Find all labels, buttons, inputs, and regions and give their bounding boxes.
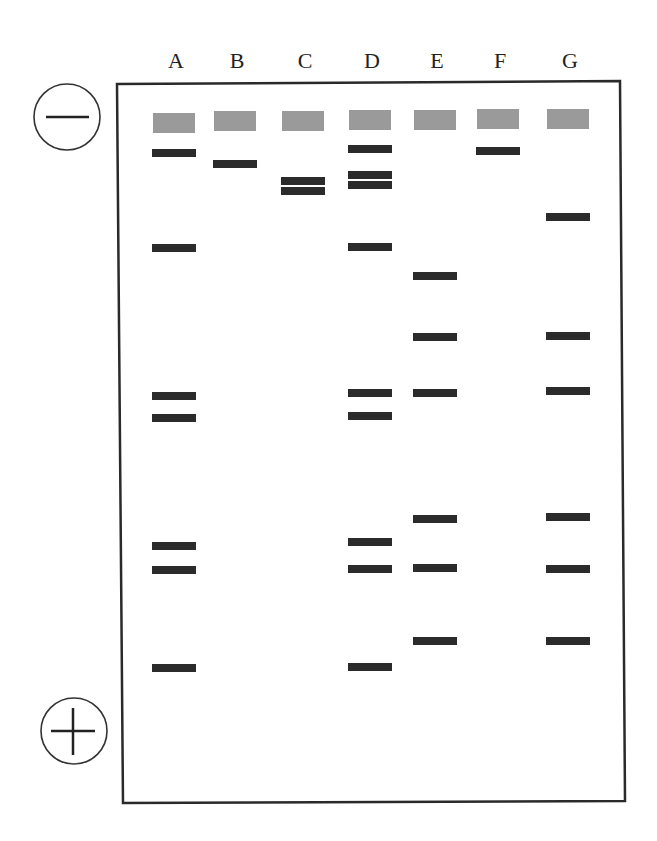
dna-band (413, 515, 457, 523)
negative-electrode-icon (34, 84, 100, 150)
dna-band (348, 243, 392, 251)
lane-e: E (413, 48, 457, 645)
lane-label: G (562, 48, 578, 73)
dna-band (546, 637, 590, 645)
dna-band (348, 412, 392, 420)
dna-band (413, 564, 457, 572)
dna-band (152, 414, 196, 422)
sample-well (214, 111, 256, 131)
dna-band (281, 177, 325, 185)
dna-band (348, 663, 392, 671)
dna-band (348, 389, 392, 397)
lane-label: C (298, 48, 313, 73)
lane-c: C (281, 48, 325, 195)
lane-label: F (494, 48, 506, 73)
dna-band (348, 538, 392, 546)
dna-band (348, 181, 392, 189)
lane-d: D (348, 48, 392, 671)
lane-b: B (213, 48, 257, 168)
sample-well (414, 110, 456, 130)
dna-band (152, 244, 196, 252)
lane-f: F (476, 48, 520, 155)
dna-band (213, 160, 257, 168)
lanes: ABCDEFG (152, 48, 590, 672)
sample-well (477, 109, 519, 129)
dna-band (348, 145, 392, 153)
sample-well (282, 111, 324, 131)
gel-frame (117, 81, 625, 803)
lane-label: B (230, 48, 245, 73)
sample-well (153, 113, 195, 133)
gel-diagram: ABCDEFG (0, 0, 657, 841)
dna-band (546, 513, 590, 521)
lane-a: A (152, 48, 196, 672)
dna-band (348, 565, 392, 573)
dna-band (413, 389, 457, 397)
dna-band (152, 149, 196, 157)
dna-band (546, 332, 590, 340)
dna-band (152, 664, 196, 672)
dna-band (546, 387, 590, 395)
sample-well (547, 109, 589, 129)
positive-electrode-icon (41, 698, 107, 764)
sample-well (349, 110, 391, 130)
dna-band (413, 637, 457, 645)
dna-band (281, 187, 325, 195)
lane-label: E (430, 48, 443, 73)
lane-label: D (364, 48, 380, 73)
dna-band (152, 566, 196, 574)
lane-label: A (168, 48, 184, 73)
dna-band (413, 272, 457, 280)
dna-band (546, 213, 590, 221)
dna-band (476, 147, 520, 155)
dna-band (152, 542, 196, 550)
dna-band (413, 333, 457, 341)
dna-band (152, 392, 196, 400)
dna-band (546, 565, 590, 573)
dna-band (348, 171, 392, 179)
lane-g: G (546, 48, 590, 645)
